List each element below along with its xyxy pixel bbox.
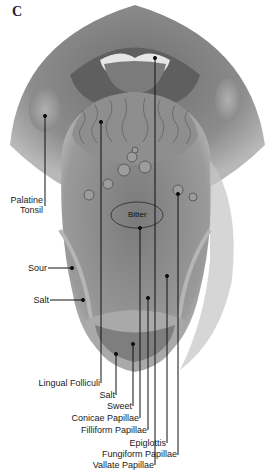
label-palatine-tonsil-line2: Tonsil: [20, 205, 43, 215]
tongue-diagram: C Bitter Palatine Tonsil Sour Salt Lingu…: [0, 0, 273, 472]
palatine-tonsil-right: [215, 78, 241, 122]
tongue-illustration: [0, 0, 273, 472]
label-salt-side: Salt: [33, 295, 49, 305]
label-salt-tip: Salt: [99, 390, 115, 400]
label-vallate-papillae: Vallate Papillae: [93, 460, 154, 470]
label-palatine-tonsil-line1: Palatine: [10, 195, 43, 205]
label-filliform-papillae: Filliform Papillae: [81, 425, 147, 435]
label-bitter: Bitter: [128, 210, 147, 219]
label-sour: Sour: [28, 263, 47, 273]
label-sweet: Sweet: [107, 401, 132, 411]
label-fungiform-papillae: Fungiform Papillae: [102, 449, 177, 459]
label-conicae-papillae: Conicae Papillae: [71, 413, 139, 423]
panel-letter: C: [12, 4, 22, 20]
label-epiglottis: Epiglottis: [129, 438, 166, 448]
label-lingual-folliculi: Lingual Folliculi: [38, 378, 100, 388]
